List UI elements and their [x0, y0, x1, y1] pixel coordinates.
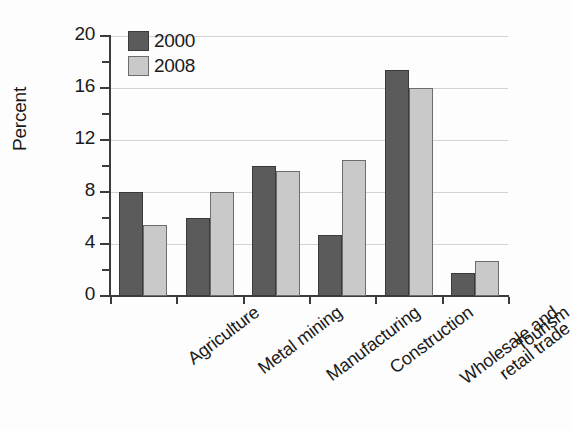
y-tick-minor — [102, 217, 109, 219]
legend-item-2008: 2008 — [128, 55, 195, 77]
bar-2008-wholesale-and-retail-trade — [409, 88, 433, 296]
y-tick-label: 20 — [55, 23, 95, 45]
bar-2008-tourism — [475, 261, 499, 296]
bar-2000-manufacturing — [252, 166, 276, 296]
y-tick-major — [100, 87, 109, 89]
y-tick-label: 4 — [55, 231, 95, 253]
y-tick-major — [100, 243, 109, 245]
y-tick-label: 0 — [55, 283, 95, 305]
bar-2000-metal-mining — [186, 218, 210, 296]
legend-item-2000: 2000 — [128, 30, 195, 52]
y-tick-major — [100, 139, 109, 141]
y-axis-title: Percent — [9, 39, 31, 199]
legend-label: 2008 — [154, 55, 195, 77]
bar-2008-manufacturing — [276, 171, 300, 296]
bar-2000-tourism — [451, 273, 475, 296]
bar-2008-metal-mining — [210, 192, 234, 296]
y-tick-minor — [102, 165, 109, 167]
dark-gray-swatch — [128, 31, 149, 51]
y-tick-minor — [102, 61, 109, 63]
light-gray-swatch — [128, 56, 149, 76]
x-tick — [309, 297, 311, 304]
bar-2000-construction — [318, 235, 342, 296]
x-tick — [110, 297, 112, 304]
x-category-label: Agriculture — [184, 302, 263, 369]
x-tick — [508, 297, 510, 304]
y-tick-label: 8 — [55, 179, 95, 201]
y-tick-label: 12 — [55, 127, 95, 149]
y-tick-major — [100, 295, 109, 297]
y-tick-major — [100, 191, 109, 193]
bar-2000-agriculture — [119, 192, 143, 296]
legend-label: 2000 — [154, 30, 195, 52]
y-tick-minor — [102, 113, 109, 115]
x-tick — [243, 297, 245, 304]
bar-2000-wholesale-and-retail-trade — [385, 70, 409, 296]
y-tick-label: 16 — [55, 75, 95, 97]
bar-2008-agriculture — [143, 225, 167, 297]
x-tick — [442, 297, 444, 304]
y-tick-major — [100, 35, 109, 37]
legend: 20002008 — [128, 30, 195, 77]
x-tick — [375, 297, 377, 304]
y-tick-minor — [102, 269, 109, 271]
x-tick — [176, 297, 178, 304]
bar-2008-construction — [342, 160, 366, 297]
